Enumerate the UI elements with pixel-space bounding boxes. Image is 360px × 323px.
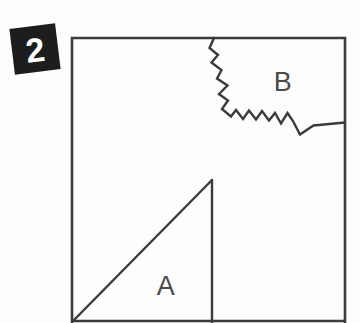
triangle-hypotenuse-line [73,180,212,321]
region-label-a: A [157,271,176,301]
figure-number-badge: 2 [9,23,60,74]
figure-diagram: B A 2 [0,0,360,323]
region-label-b: B [274,67,293,97]
figure-container: B A 2 [0,0,360,323]
